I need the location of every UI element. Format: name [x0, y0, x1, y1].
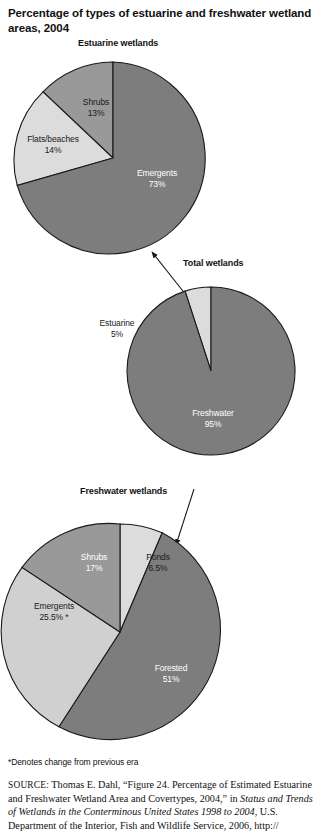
slice-label-text: Ponds	[146, 552, 170, 562]
source-label: SOURCE:	[8, 780, 49, 790]
slice-label-forested: Forested 51%	[140, 663, 202, 684]
slice-label-text: Shrubs	[81, 552, 107, 562]
slice-label-pct: 51%	[140, 674, 202, 685]
footnote: *Denotes change from previous era	[8, 757, 138, 767]
slice-label-text: Emergents	[34, 601, 74, 611]
slice-label-shrubs-freshwater: Shrubs 17%	[68, 552, 120, 573]
slice-label-emergents-freshwater: Emergents 25.5% *	[18, 601, 90, 622]
slice-label-pct: 6.5%	[132, 563, 184, 574]
slice-label-pct: 17%	[68, 563, 120, 574]
source-citation: SOURCE: Thomas E. Dahl, “Figure 24. Perc…	[8, 778, 320, 832]
slice-label-pct: 25.5% *	[18, 612, 90, 623]
slice-label-ponds: Ponds 6.5%	[132, 552, 184, 573]
slice-label-text: Forested	[155, 663, 188, 673]
